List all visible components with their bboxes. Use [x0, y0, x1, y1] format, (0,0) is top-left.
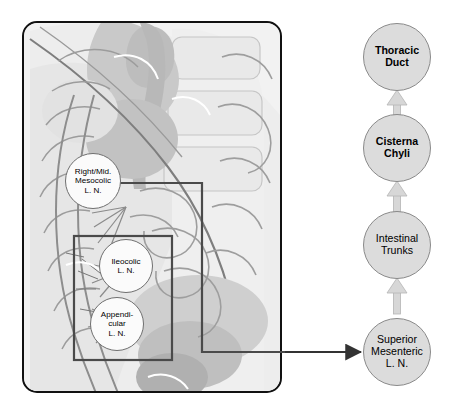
node-label-line: Duct [375, 57, 419, 69]
arrow-cisterna-to-thoracic [387, 90, 407, 115]
node-intestinal-trunks[interactable]: Intestinal Trunks [363, 211, 431, 279]
node-label-line: L. N. [111, 266, 140, 275]
node-label-line: Appendi- [101, 310, 133, 319]
node-label-line: Ileocolic [111, 257, 140, 266]
arrow-intestinal-to-cisterna [387, 181, 407, 212]
node-label-line: L. N. [371, 358, 423, 370]
node-label-line: Right/Mid. [75, 167, 111, 176]
node-label-line: Mesocolic [75, 176, 111, 185]
node-ileocolic[interactable]: Ileocolic L. N. [99, 239, 153, 293]
node-appendicular[interactable]: Appendi- cular L. N. [90, 297, 144, 351]
anatomy-illustration [22, 21, 282, 393]
node-superior-mesenteric[interactable]: Superior Mesenteric L. N. [363, 318, 431, 386]
node-label-line: Chyli [376, 148, 418, 160]
node-cisterna-chyli[interactable]: Cisterna Chyli [363, 114, 431, 182]
figure-root: Right/Mid. Mesocolic L. N. Ileocolic L. … [0, 0, 454, 417]
node-label-line: cular [101, 319, 133, 328]
node-label-line: Trunks [376, 245, 418, 257]
node-label-line: L. N. [101, 329, 133, 338]
anatomy-panel [22, 21, 282, 393]
node-thoracic-duct[interactable]: Thoracic Duct [363, 23, 431, 91]
arrow-superior-to-intestinal [387, 278, 407, 314]
node-label-line: L. N. [75, 186, 111, 195]
node-right-mid-mesocolic[interactable]: Right/Mid. Mesocolic L. N. [65, 153, 121, 209]
